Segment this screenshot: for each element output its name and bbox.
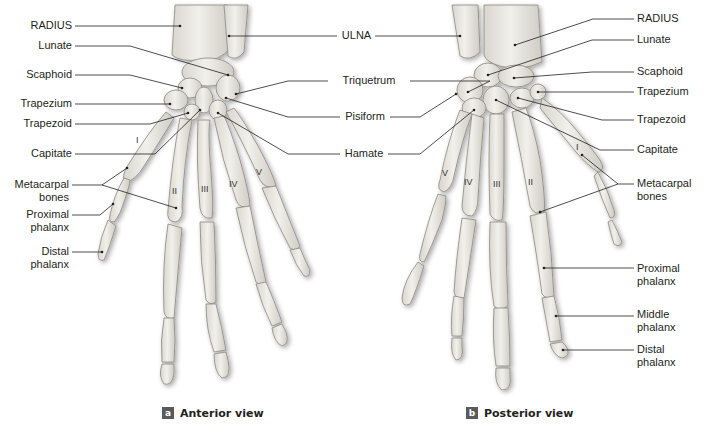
label-trapezium-anterior: Trapezium [20,97,72,110]
numeral-i-a: I [136,135,139,145]
label-trapezoid-posterior: Trapezoid [637,113,686,126]
numeral-ii-b: II [528,177,533,187]
caption-anterior-view: a Anterior view [162,406,264,420]
posterior-hand [402,5,622,390]
numeral-iv-a: IV [229,179,238,189]
label-distal-phalanx-anterior: Distal phalanx [30,245,69,271]
label-metacarpal-bones-anterior: Metacarpal bones [15,178,69,204]
label-middle-phalanx-posterior: Middle phalanx [637,308,676,334]
label-capitate-posterior: Capitate [637,143,678,156]
numeral-ii-a: II [172,186,177,196]
label-scaphoid-posterior: Scaphoid [637,65,683,78]
label-distal-phalanx-posterior: Distal phalanx [637,343,676,369]
caption-text-posterior: Posterior view [484,407,573,420]
panel-badge-b: b [466,407,478,419]
label-trapezoid-anterior: Trapezoid [23,117,72,130]
numeral-iii-a: III [201,184,209,194]
hand-bones-illustration: I II III IV V [0,0,708,432]
anterior-hand [98,5,310,384]
panel-badge-a: a [162,407,174,419]
caption-posterior-view: b Posterior view [466,406,573,420]
numeral-i-b: I [576,142,579,152]
label-triquetrum: Triquetrum [329,74,409,87]
label-radius-anterior: RADIUS [30,19,72,32]
label-scaphoid-anterior: Scaphoid [26,68,72,81]
label-pisiform: Pisiform [340,110,390,123]
label-radius-posterior: RADIUS [637,12,679,25]
label-capitate-anterior: Capitate [31,147,72,160]
posterior-metacarpal-numerals: V IV III II I [442,142,579,189]
hand-bones-diagram: I II III IV V [0,0,708,432]
label-proximal-phalanx-anterior: Proximal phalanx [26,208,69,234]
label-hamate: Hamate [340,147,388,160]
label-metacarpal-bones-posterior: Metacarpal bones [637,177,691,203]
numeral-v-b: V [442,168,448,178]
label-ulna: ULNA [339,29,374,42]
label-lunate-anterior: Lunate [38,39,72,52]
label-proximal-phalanx-posterior: Proximal phalanx [637,262,680,288]
numeral-iv-b: IV [464,177,473,187]
caption-text-anterior: Anterior view [180,407,264,420]
numeral-v-a: V [256,167,262,177]
label-lunate-posterior: Lunate [637,33,671,46]
numeral-iii-b: III [493,179,501,189]
label-trapezium-posterior: Trapezium [637,85,689,98]
